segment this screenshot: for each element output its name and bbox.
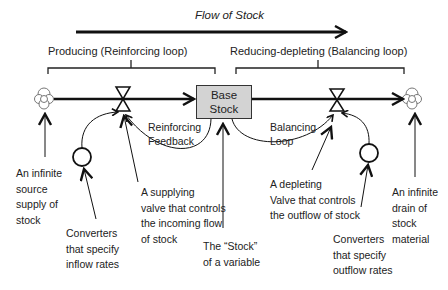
reducing-loop-label: Reducing-depleting (Balancing loop) — [230, 44, 407, 60]
inflow-converter-icon — [73, 148, 91, 166]
stock-variable-annotation: The “Stock” of a variable — [203, 239, 260, 270]
outflow-converter-annotation: Converters that specify outflow rates — [333, 232, 393, 279]
supply-valve-annotation: A supplying valve that controls the inco… — [141, 185, 226, 247]
source-annotation: An infinite source supply of stock — [16, 166, 62, 228]
base-stock-box: Base Stock — [196, 85, 252, 119]
outflow-converter-icon — [360, 144, 378, 162]
deplete-valve-annotation: A depleting Valve that controls the outf… — [270, 177, 360, 224]
stock-label-line2: Stock — [210, 102, 239, 116]
inflow-converter-link — [82, 112, 118, 148]
stock-label-line1: Base — [211, 88, 237, 102]
drain-cloud-icon — [403, 88, 422, 109]
reinforcing-feedback-label: Reinforcing Feedback — [148, 120, 201, 148]
outflow-converter-link — [342, 113, 369, 144]
left-bracket — [48, 60, 215, 74]
inflow-converter-annotation: Converters that specify inflow rates — [66, 226, 119, 273]
flow-of-stock-title: Flow of Stock — [195, 8, 264, 24]
drain-annotation: An infinite drain of stock material — [392, 185, 438, 247]
right-bracket — [236, 60, 404, 74]
balancing-loop-label: Balancing Loop — [270, 120, 316, 148]
inflow-converter-pointer — [84, 169, 96, 219]
outflow-converter-pointer — [361, 165, 368, 207]
producing-loop-label: Producing (Reinforcing loop) — [48, 44, 187, 60]
source-cloud-icon — [35, 88, 54, 109]
